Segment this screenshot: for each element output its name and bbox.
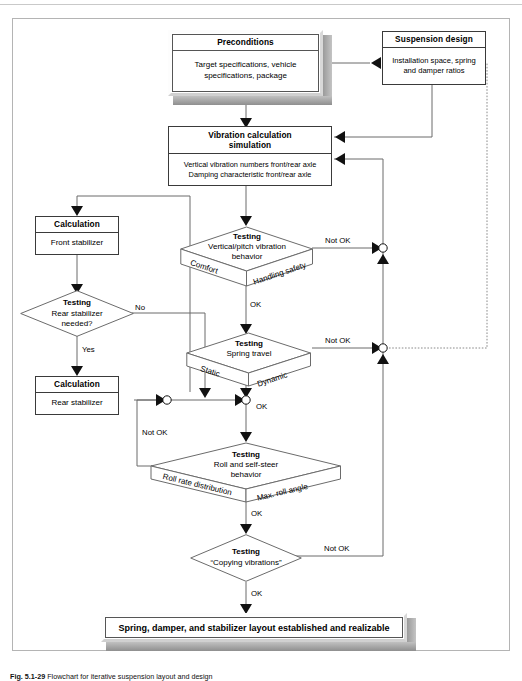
node-test-roll-selfsteer: Testing Roll and self-steer behavior Rol… xyxy=(150,442,342,504)
node-calculation-rear-stabilizer: Calculation Rear stabilizer xyxy=(35,376,119,415)
suspension-design-title: Suspension design xyxy=(383,32,485,48)
extrude-right xyxy=(323,35,332,105)
node-result: Spring, damper, and stabilizer layout es… xyxy=(101,613,416,651)
calc-front-title: Calculation xyxy=(36,217,118,233)
calc-rear-body: Rear stabilizer xyxy=(36,393,118,415)
edge-label-rear-stabilizer-no: No xyxy=(135,303,145,312)
vibration-calculation-title: Vibration calculation simulation xyxy=(169,127,331,154)
node-vibration-calculation: Vibration calculation simulation Vertica… xyxy=(168,126,332,186)
wire-to-calc-front xyxy=(77,196,190,212)
preconditions-title: Preconditions xyxy=(173,35,318,51)
suspension-design-body: Installation space, spring and damper ra… xyxy=(383,48,485,85)
result-body: Spring, damper, and stabilizer layout es… xyxy=(106,618,402,637)
test-vertical-label: Testing Vertical/pitch vibration behavio… xyxy=(180,232,314,262)
test-copying-label: Testing “Copying vibrations” xyxy=(190,547,302,569)
test-roll-title: Testing xyxy=(150,450,342,460)
edge-label-ok-vertical: OK xyxy=(250,300,261,309)
test-spring-title: Testing xyxy=(186,339,312,349)
figure-caption-text: Flowchart for iterative suspension layou… xyxy=(47,672,212,681)
edge-label-ok-roll: OK xyxy=(251,509,262,518)
test-spring-body: Spring travel xyxy=(227,349,272,358)
edge-label-not-ok-roll: Not OK xyxy=(142,428,168,437)
test-copying-title: Testing xyxy=(190,547,302,558)
figure-caption: Fig. 5.1-29 Flowchart for iterative susp… xyxy=(10,672,510,681)
calc-front-body: Front stabilizer xyxy=(36,233,118,255)
node-test-copying-vibrations: Testing “Copying vibrations” xyxy=(190,534,302,582)
node-calculation-front-stabilizer: Calculation Front stabilizer xyxy=(35,216,119,255)
figure-page: Preconditions Target specifications, veh… xyxy=(0,0,522,681)
extrude-bottom xyxy=(173,96,332,105)
wire-suspension-to-vibration xyxy=(334,85,432,137)
node-test-vertical-pitch: Testing Vertical/pitch vibration behavio… xyxy=(180,226,314,288)
test-rear-stabilizer-title: Testing xyxy=(20,298,134,309)
test-rear-stabilizer-label: Testing Rear stabilizer needed? xyxy=(20,298,134,330)
test-rear-stabilizer-body: Rear stabilizer needed? xyxy=(51,309,102,329)
test-vertical-title: Testing xyxy=(180,232,314,242)
edge-label-ok-spring: OK xyxy=(256,402,267,411)
test-roll-body: Roll and self-steer behavior xyxy=(214,460,278,479)
figure-caption-number: Fig. 5.1-29 xyxy=(10,672,45,681)
vibration-calculation-body: Vertical vibration numbers front/rear ax… xyxy=(169,154,331,185)
node-preconditions: Preconditions Target specifications, veh… xyxy=(168,30,332,105)
edge-label-not-ok-copying: Not OK xyxy=(324,544,350,553)
node-test-spring-travel: Testing Spring travel Static Dynamic xyxy=(186,332,312,388)
calc-rear-title: Calculation xyxy=(36,377,118,393)
box-inner: Preconditions Target specifications, veh… xyxy=(172,34,319,92)
extrude-bottom xyxy=(106,642,416,651)
test-copying-body: “Copying vibrations” xyxy=(210,558,281,567)
node-test-rear-stabilizer: Testing Rear stabilizer needed? xyxy=(20,290,134,337)
wire-feedback-dotted xyxy=(389,63,487,348)
edge-label-ok-copying: OK xyxy=(251,589,262,598)
node-suspension-design: Suspension design Installation space, sp… xyxy=(382,31,486,85)
preconditions-body: Target specifications, vehicle specifica… xyxy=(173,51,318,92)
box-inner: Spring, damper, and stabilizer layout es… xyxy=(105,617,403,638)
edge-label-not-ok-spring: Not OK xyxy=(325,336,351,345)
edge-label-not-ok-vertical: Not OK xyxy=(325,236,351,245)
edge-label-rear-stabilizer-yes: Yes xyxy=(82,345,95,354)
test-spring-label: Testing Spring travel xyxy=(186,339,312,359)
test-vertical-body: Vertical/pitch vibration behavior xyxy=(208,242,286,261)
